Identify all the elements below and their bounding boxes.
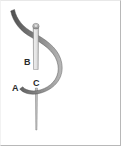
shaft-top-knob: [33, 23, 39, 29]
figure-container: A B C: [0, 0, 121, 146]
figure-label-a: A: [12, 84, 19, 93]
hook-and-shaft-diagram: [0, 0, 121, 146]
figure-label-b: B: [24, 58, 31, 67]
lower-shaft: [35, 88, 37, 130]
upper-shaft: [33, 28, 38, 70]
figure-label-c: C: [33, 79, 40, 88]
